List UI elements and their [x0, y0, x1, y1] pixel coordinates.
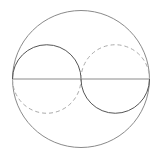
geometry-diagram	[0, 0, 161, 152]
right-circle-lower-solid-arc	[81, 79, 150, 113]
right-circle-upper-dashed-arc	[81, 45, 150, 79]
left-circle-lower-dashed-arc	[13, 79, 82, 113]
left-circle-upper-solid-arc	[13, 45, 82, 79]
